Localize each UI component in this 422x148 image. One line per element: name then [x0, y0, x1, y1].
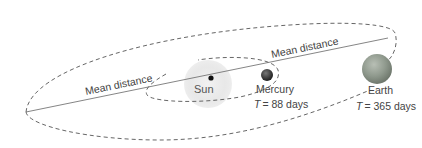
sun-focus-dot	[208, 75, 213, 80]
mercury-label: Mercury	[256, 83, 295, 95]
mercury-planet	[261, 69, 273, 81]
earth-label: Earth	[368, 84, 393, 96]
mercury-period: T= 88 days	[254, 98, 308, 110]
mean-distance-label-earth: Mean distance	[270, 35, 339, 60]
earth-planet	[362, 54, 392, 84]
earth-period: T= 365 days	[356, 100, 416, 112]
orbit-diagram: Sun Mercury T= 88 days Earth T= 365 days…	[0, 0, 422, 148]
sun-label: Sun	[194, 83, 214, 95]
